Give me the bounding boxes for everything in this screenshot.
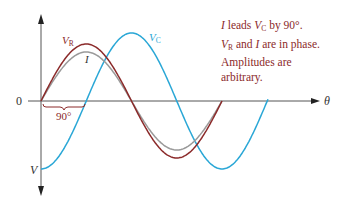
phase-label: 90° [56, 110, 71, 122]
i-label: I [84, 53, 90, 65]
note-line-3: Amplitudes are [221, 55, 345, 70]
vr-label: VR [62, 34, 74, 48]
vc-label: VC [149, 31, 161, 45]
origin-label: 0 [16, 94, 22, 108]
x-axis-arrow-icon [311, 98, 320, 104]
note-line-1: I leads VC by 90°. [221, 18, 345, 37]
note-line-2: VR and I are in phase. [221, 37, 345, 56]
v-axis-label: V [30, 163, 39, 177]
annotation-note: I leads VC by 90°. VR and I are in phase… [221, 18, 345, 84]
y-axis-down-arrow-icon [38, 186, 44, 196]
note-line-4: arbitrary. [221, 70, 345, 85]
y-axis-up-arrow-icon [38, 14, 44, 24]
theta-label: θ [324, 94, 330, 108]
